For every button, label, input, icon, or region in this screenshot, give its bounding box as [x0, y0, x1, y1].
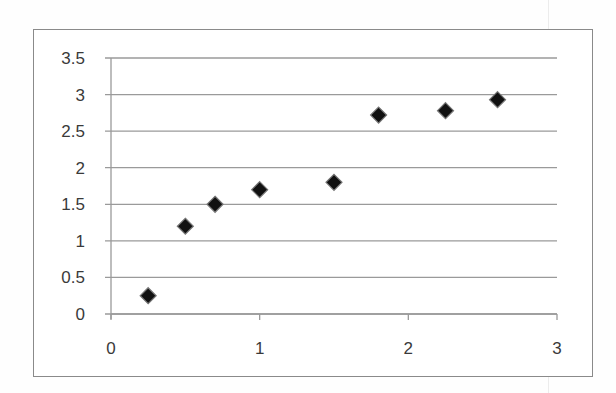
- diamond-marker-icon: [326, 174, 342, 190]
- x-tick-label: 0: [106, 339, 115, 358]
- y-tick-label: 1.5: [61, 195, 85, 214]
- y-tick-label: 2.5: [61, 122, 85, 141]
- diamond-marker-icon: [371, 107, 387, 123]
- x-axis-tick-labels: 0123: [106, 339, 561, 358]
- diamond-marker-icon: [252, 182, 268, 198]
- y-tick-label: 0.5: [61, 268, 85, 287]
- data-points: [140, 92, 505, 304]
- diamond-marker-icon: [207, 196, 223, 212]
- y-tick-label: 0: [76, 305, 85, 324]
- diamond-marker-icon: [140, 288, 156, 304]
- scatter-plot: 00.511.522.533.5 0123: [0, 0, 616, 393]
- x-tick-label: 2: [404, 339, 413, 358]
- y-tick-label: 2: [76, 159, 85, 178]
- diamond-marker-icon: [177, 218, 193, 234]
- diamond-marker-icon: [438, 103, 454, 119]
- y-tick-label: 1: [76, 232, 85, 251]
- y-tick-label: 3: [76, 86, 85, 105]
- x-tick-label: 3: [552, 339, 561, 358]
- y-tick-label: 3.5: [61, 49, 85, 68]
- x-tick-label: 1: [255, 339, 264, 358]
- y-axis-tick-labels: 00.511.522.533.5: [61, 49, 85, 324]
